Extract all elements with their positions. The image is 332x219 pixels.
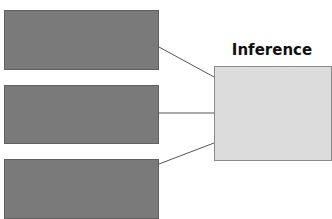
inference-title: Inference bbox=[214, 41, 330, 59]
input-box-1 bbox=[4, 10, 159, 70]
input-box-3 bbox=[4, 159, 159, 219]
connector-3 bbox=[159, 143, 214, 164]
inference-box bbox=[214, 66, 332, 161]
connector-1 bbox=[159, 47, 214, 77]
input-box-2 bbox=[4, 85, 159, 144]
